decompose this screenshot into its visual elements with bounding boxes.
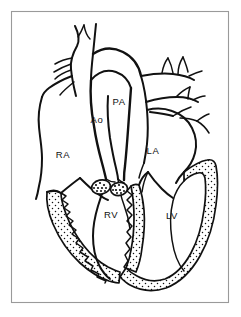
label-ra: RA bbox=[56, 149, 70, 160]
heart-diagram-figure: Ao PA RA LA RV LV bbox=[0, 0, 241, 317]
label-ao: Ao bbox=[91, 114, 104, 125]
label-pa: PA bbox=[112, 96, 125, 107]
label-rv: RV bbox=[104, 209, 118, 220]
label-la: LA bbox=[147, 145, 160, 156]
heart-anatomy-drawing: Ao PA RA LA RV LV bbox=[0, 0, 241, 317]
label-lv: LV bbox=[166, 210, 178, 221]
